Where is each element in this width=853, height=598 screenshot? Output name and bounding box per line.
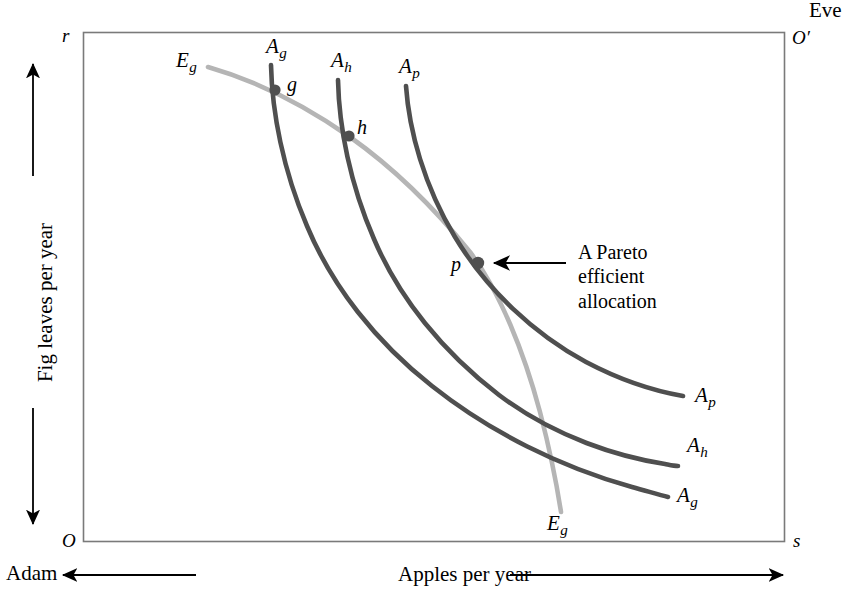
curve-label-Ag-top-base: A: [266, 34, 279, 58]
curve-label-Ap-right-sub: p: [708, 394, 716, 410]
pareto-callout-line-1: A Pareto: [578, 240, 657, 264]
curve-label-Ag-top-sub: g: [279, 45, 287, 61]
point-g: [269, 84, 280, 95]
curve-label-Ag-right-base: A: [677, 483, 690, 507]
y-axis-label-wrapper: Fig leaves per year: [33, 173, 58, 433]
point-label-h: h: [357, 117, 367, 137]
point-label-g: g: [287, 74, 297, 94]
pareto-callout-line-3: allocation: [578, 289, 657, 313]
agent-label-eve: Eve: [809, 0, 842, 21]
y-axis-label: Fig leaves per year: [33, 223, 57, 382]
curve-label-Ag-right: Ag: [677, 485, 698, 510]
pareto-callout-text: A Pareto efficient allocation: [578, 240, 657, 313]
curve-label-Ap-right-base: A: [695, 383, 708, 407]
curve-label-Ap-right: Ap: [695, 385, 716, 410]
curve-Eg: [208, 67, 561, 512]
curve-label-Ag-right-sub: g: [690, 494, 698, 510]
curve-label-Eg-bottom-base: E: [547, 511, 560, 535]
corner-label-o: O: [62, 531, 76, 550]
curve-label-Ap-top: Ap: [399, 56, 420, 81]
edgeworth-box-figure: r O′ O s Eve Adam Apples per year Fig le…: [0, 0, 853, 598]
point-h: [343, 130, 354, 141]
agent-label-adam: Adam: [6, 563, 57, 584]
corner-label-s: s: [793, 531, 800, 550]
curve-label-Ah-right: Ah: [687, 435, 708, 460]
x-axis-label: Apples per year: [398, 564, 531, 585]
curve-label-Eg-top-base: E: [176, 48, 189, 72]
corner-label-r: r: [62, 26, 69, 45]
curve-label-Ah-top-sub: h: [344, 59, 352, 75]
curve-label-Eg-top: Eg: [176, 50, 197, 75]
curve-label-Ap-top-sub: p: [412, 65, 420, 81]
curve-label-Ah-right-base: A: [687, 433, 700, 457]
curve-label-Ah-top-base: A: [331, 48, 344, 72]
curve-label-Ah-right-sub: h: [700, 444, 708, 460]
diagram-canvas: [0, 0, 853, 598]
point-label-p: p: [451, 254, 461, 274]
corner-label-o-prime: O′: [792, 28, 810, 47]
pareto-callout-line-2: efficient: [578, 264, 657, 288]
curve-label-Ah-top: Ah: [331, 50, 352, 75]
curve-label-Eg-top-sub: g: [189, 59, 197, 75]
curve-label-Eg-bottom-sub: g: [560, 522, 568, 538]
curve-label-Eg-bottom: Eg: [547, 513, 568, 538]
curve-label-Ag-top: Ag: [266, 36, 287, 61]
curve-label-Ap-top-base: A: [399, 54, 412, 78]
point-p: [472, 257, 484, 269]
